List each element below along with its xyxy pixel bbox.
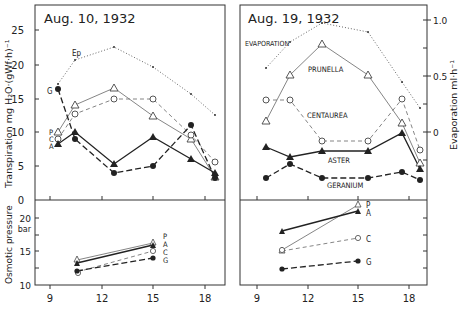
xtick-9-right: 9 xyxy=(254,293,260,304)
left-frame xyxy=(35,5,225,285)
label-centaurea: CENTAUREA xyxy=(307,111,348,120)
series-centaurea xyxy=(266,99,420,150)
series-c xyxy=(58,99,215,162)
right-osmotic-series xyxy=(279,201,361,272)
xtick-9-left: 9 xyxy=(47,293,53,304)
series-ep xyxy=(58,47,215,115)
figure: Aug. 10, 1932 Aug. 19, 1932 25 20 15 10 … xyxy=(0,0,460,310)
xtick-12-left: 12 xyxy=(96,293,109,304)
otick-20: 20 xyxy=(20,214,32,224)
xtick-12-right: 12 xyxy=(302,293,315,304)
left-title: Aug. 10, 1932 xyxy=(44,11,136,26)
osm-label-c-right: C xyxy=(366,235,371,244)
osm-label-g-left: G xyxy=(163,256,168,265)
ylabel-osmotic: Osmotic pressure xyxy=(4,205,14,284)
series-prunella xyxy=(266,44,420,163)
right-title: Aug. 19, 1932 xyxy=(248,11,340,26)
label-geranium: GERANIUM xyxy=(327,181,363,190)
ylabel-evaporation: Evaporation ml·h⁻¹ xyxy=(448,60,459,150)
otick-10: 10 xyxy=(20,281,32,291)
label-evaporation: EVAPORATION xyxy=(245,40,289,48)
xtick-18-left: 18 xyxy=(199,293,212,304)
label-a: A xyxy=(49,142,54,151)
c-markers xyxy=(55,96,218,165)
ytick-5: 5 xyxy=(18,161,24,172)
labels: Aug. 10, 1932 Aug. 19, 1932 25 20 15 10 … xyxy=(3,11,459,304)
xtick-15-right: 15 xyxy=(352,293,365,304)
rtick-0: 0 xyxy=(433,128,439,138)
label-prunella: PRUNELLA xyxy=(308,65,344,74)
ylabel-transpiration: Transpiration mg H₂O·(gWf·h)⁻¹ xyxy=(3,39,14,189)
xtick-15-left: 15 xyxy=(147,293,160,304)
rtick-1: 1.0 xyxy=(433,16,448,26)
label-g: G xyxy=(47,87,53,96)
ytick-0: 0 xyxy=(18,195,24,206)
xtick-18-right: 18 xyxy=(403,293,416,304)
osmotic-unit: bar xyxy=(18,225,32,234)
ytick-25: 25 xyxy=(11,25,24,36)
osm-label-a-right: A xyxy=(366,209,371,218)
rtick-05: 0.5 xyxy=(433,72,447,82)
left-series xyxy=(54,46,219,181)
left-osmotic-series xyxy=(74,239,156,276)
label-aster: ASTER xyxy=(328,156,350,165)
osm-label-g-right: G xyxy=(366,258,372,267)
otick-15: 15 xyxy=(20,247,31,257)
label-ep: Ep xyxy=(72,49,82,58)
